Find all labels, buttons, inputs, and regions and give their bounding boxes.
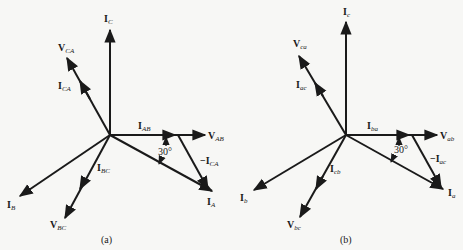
vector-ica	[80, 81, 90, 99]
label-vca: VCA	[58, 42, 75, 55]
vector-ibc	[80, 178, 86, 189]
vector-iac	[315, 83, 323, 96]
label-icb: Icb	[330, 163, 341, 176]
label-vab: Vab	[440, 130, 455, 143]
label-ibc: IBC	[97, 162, 110, 175]
vector-vbc	[65, 135, 110, 218]
diagram-b: Ic Vca Iac Iba Vab Ia −Iac 30° Ib Icb Vb…	[240, 6, 456, 246]
angle-label: 30°	[394, 144, 408, 155]
angle-label: 30°	[158, 146, 172, 157]
label-ib: Ib	[240, 192, 248, 205]
label-iba: Iba	[367, 120, 378, 133]
label-ib: IB	[7, 199, 16, 212]
label-ica: ICA	[58, 80, 72, 93]
label-iab: IAB	[138, 120, 151, 133]
caption-a: (a)	[101, 234, 112, 246]
caption-b: (b)	[340, 234, 352, 246]
label-neg-ica: −ICA	[200, 155, 219, 168]
label-vca: Vca	[293, 38, 307, 51]
label-iac: Iac	[296, 79, 307, 92]
diagram-a: IC VCA ICA IAB VAB IA −ICA 30° IB IBC VB…	[7, 13, 225, 246]
label-ic: IC	[104, 13, 113, 26]
label-vbc: Vbc	[287, 219, 302, 232]
phasor-diagrams: IC VCA ICA IAB VAB IA −ICA 30° IB IBC VB…	[0, 0, 463, 250]
vector-ia	[110, 135, 212, 191]
vector-icb	[316, 176, 323, 189]
label-ia: IA	[207, 196, 216, 209]
label-ia: Ia	[448, 187, 456, 200]
label-neg-iac: −Iac	[430, 153, 447, 166]
label-vab: VAB	[208, 130, 225, 143]
label-vbc: VBC	[50, 219, 67, 232]
label-ic: Ic	[343, 6, 351, 19]
